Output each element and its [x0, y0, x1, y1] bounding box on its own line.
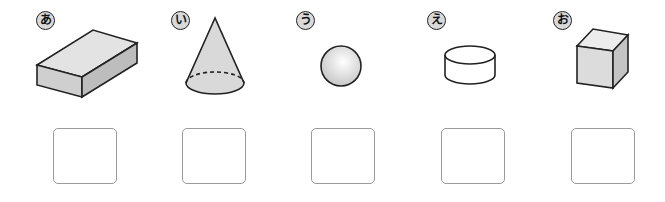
label-o: お	[553, 11, 572, 30]
cylinder-icon	[440, 40, 500, 92]
answer-box-u[interactable]	[311, 128, 375, 184]
answer-box-i[interactable]	[182, 128, 246, 184]
rectangular-prism-icon	[30, 25, 150, 100]
label-e: え	[427, 11, 446, 30]
cone-icon	[180, 15, 250, 100]
cube-icon	[574, 26, 634, 92]
answer-box-a[interactable]	[53, 128, 117, 184]
answer-box-o[interactable]	[571, 128, 635, 184]
label-u: う	[296, 11, 315, 30]
sphere-icon	[318, 43, 364, 89]
answer-box-e[interactable]	[441, 128, 505, 184]
